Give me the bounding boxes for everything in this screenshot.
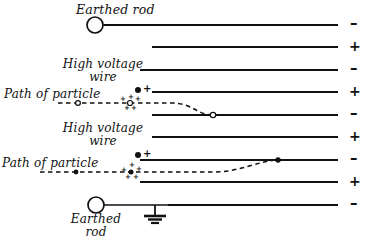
charge-cluster-2-sign-3: + — [136, 166, 142, 173]
label-earthed-rod-bottom-line2: rod — [85, 225, 106, 239]
polarity-sign-8-plus: + — [349, 174, 361, 188]
path-of-particle-1-entry-marker — [76, 101, 81, 106]
label-hv-wire-2-line2: wire — [89, 134, 117, 148]
charge-cluster-1-sign-2: + — [128, 94, 134, 101]
label-earthed-rod-bottom: Earthed rod — [51, 213, 141, 238]
high-voltage-wire-1-dot — [135, 87, 141, 93]
charge-cluster-2-sign-2: + — [129, 162, 135, 169]
path-of-particle-2-end-marker — [275, 157, 280, 162]
charge-cluster-2-sign-4: + — [125, 174, 131, 181]
charge-cluster-1-sign-1: + — [120, 96, 126, 103]
polarity-sign-3-minus: – — [350, 61, 358, 76]
charge-cluster-1-sign-3: + — [135, 96, 141, 103]
charge-cluster-1-sign-4: + — [124, 105, 130, 112]
label-hv-wire-1-line2: wire — [89, 70, 117, 84]
label-path-of-particle-1: Path of particle — [4, 88, 101, 101]
label-high-voltage-wire-1: High voltage wire — [48, 58, 158, 83]
label-high-voltage-wire-2: High voltage wire — [48, 122, 158, 147]
figure-canvas: Earthed rod High voltage wire Path of pa… — [0, 0, 380, 244]
path-of-particle-1-end-marker — [210, 112, 215, 117]
polarity-sign-5-minus: – — [350, 106, 358, 121]
high-voltage-wire-1-plus-sign: + — [143, 84, 151, 94]
polarity-sign-2-plus: + — [349, 39, 361, 53]
polarity-sign-4-plus: + — [349, 84, 361, 98]
label-path-of-particle-2: Path of particle — [2, 157, 99, 170]
label-earthed-rod-top: Earthed rod — [76, 3, 155, 16]
earthed-rod-bottom-circle — [88, 197, 104, 213]
charge-cluster-1-sign-5: + — [131, 105, 137, 112]
polarity-sign-6-plus: + — [349, 129, 361, 143]
earthed-rod-top-circle — [87, 17, 103, 33]
path-of-particle-2-entry-marker — [74, 170, 79, 175]
charge-cluster-2-sign-5: + — [133, 174, 139, 181]
polarity-sign-9-minus: – — [350, 196, 358, 211]
high-voltage-wire-2-dot — [135, 152, 141, 158]
polarity-sign-1-minus: – — [350, 16, 358, 31]
electrode-lines-group — [104, 25, 338, 205]
high-voltage-wire-2-plus-sign: + — [143, 149, 151, 159]
polarity-sign-7-minus: – — [350, 151, 358, 166]
